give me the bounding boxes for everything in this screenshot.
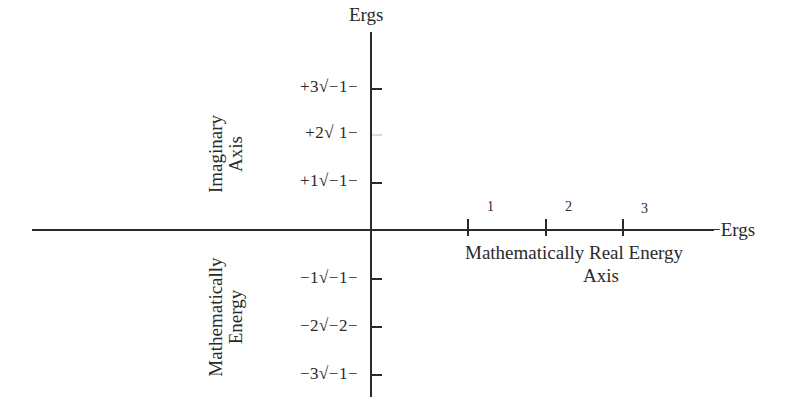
- y-tick-minus-1: [372, 278, 382, 280]
- y-tick-minus-3: [372, 374, 382, 376]
- real-energy-axis-caption: Mathematically Real Energy: [465, 242, 683, 264]
- y-tick-minus-2: [372, 326, 382, 328]
- x-tick-2: [545, 219, 547, 236]
- horizontal-axis-ergs-label: −Ergs: [710, 219, 755, 241]
- y-tick-label-plus-1: +1√−1−: [258, 171, 358, 191]
- mathematically-energy-side-label: Mathematically Energy: [206, 236, 246, 398]
- x-tick-label-3: 3: [641, 201, 648, 217]
- x-tick-1: [467, 219, 469, 236]
- real-energy-axis-line: [32, 229, 714, 231]
- imaginary-axis-side-label: Imaginary Axis: [206, 84, 246, 224]
- x-tick-label-2: 2: [565, 199, 572, 215]
- side-label-line-2: Energy: [226, 236, 246, 398]
- y-tick-label-plus-2: +2√ 1−: [258, 123, 358, 143]
- x-tick-label-1: 1: [487, 199, 494, 215]
- imaginary-axis-line: [370, 32, 372, 397]
- y-tick-label-minus-3: −3√−1−: [258, 364, 358, 384]
- y-tick-label-plus-3: +3√−1−: [258, 77, 358, 97]
- y-tick-label-minus-2: −2√−2−: [258, 316, 358, 336]
- x-tick-3: [622, 219, 624, 236]
- y-tick-plus-3: [372, 88, 382, 90]
- y-tick-plus-2: [372, 134, 382, 136]
- y-tick-plus-1: [372, 182, 382, 184]
- vertical-axis-ergs-label: Ergs: [349, 4, 383, 26]
- side-label-line-1: Imaginary: [206, 84, 226, 224]
- side-label-line-2: Axis: [226, 84, 246, 224]
- y-tick-label-minus-1: −1√−1−: [258, 268, 358, 288]
- side-label-line-1: Mathematically: [206, 236, 226, 398]
- real-energy-axis-caption-line-2: Axis: [583, 265, 619, 287]
